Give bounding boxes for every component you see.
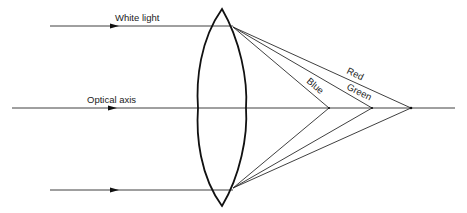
top-red-ray (233, 27, 411, 108)
diagram-canvas: White light Optical axis Red Green Blue (0, 0, 467, 213)
blue-label: Blue (305, 75, 327, 96)
white-light-label: White light (115, 12, 160, 23)
biconvex-lens (198, 9, 247, 206)
blue-focus-point (328, 107, 330, 109)
optical-axis-label: Optical axis (87, 94, 136, 105)
chromatic-aberration-diagram: White light Optical axis Red Green Blue (0, 0, 467, 213)
bottom-ray-arrow-icon (110, 188, 119, 193)
bottom-green-ray (233, 108, 372, 188)
red-focus-point (410, 107, 413, 110)
top-blue-ray (233, 27, 329, 108)
axis-arrow-icon (108, 106, 117, 111)
green-focus-point (371, 107, 373, 109)
top-ray-arrow-icon (110, 24, 119, 29)
bottom-blue-ray (233, 108, 329, 188)
bottom-red-ray (233, 108, 411, 188)
